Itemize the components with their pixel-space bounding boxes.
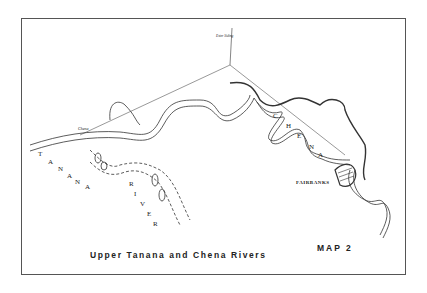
fairbanks-label: FAIRBANKS	[296, 180, 330, 185]
river-letter: V	[140, 200, 145, 208]
chena-town-label: Chena	[78, 126, 88, 131]
river-letter: R	[129, 180, 134, 188]
chena-letter: E	[297, 132, 301, 140]
chena-letter: C	[273, 112, 278, 120]
chena-letter: H	[286, 122, 291, 130]
tanana-letter: T	[38, 150, 42, 158]
map-number: MAP 2	[317, 243, 353, 253]
tanana-letter: N	[58, 165, 63, 173]
chena-letter: A	[318, 151, 323, 159]
ester-siding-label: Ester Siding	[216, 34, 233, 38]
tanana-letter: A	[67, 172, 72, 180]
tanana-letter: N	[75, 178, 80, 186]
river-letter: I	[134, 190, 136, 198]
chena-letter: N	[309, 143, 314, 151]
river-letter: R	[153, 220, 158, 228]
tanana-letter: A	[85, 183, 90, 191]
map-title: Upper Tanana and Chena Rivers	[90, 250, 267, 260]
river-letter: E	[147, 210, 151, 218]
tanana-letter: A	[48, 158, 53, 166]
